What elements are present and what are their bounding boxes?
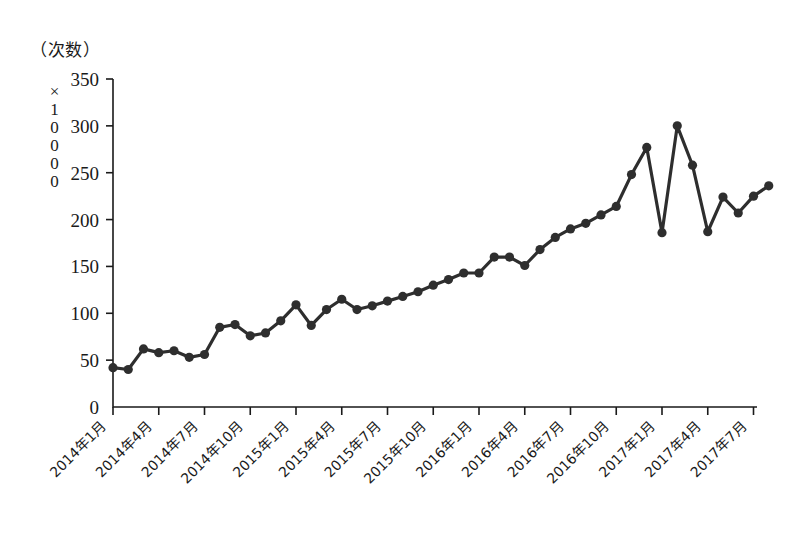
- data-point: [368, 301, 377, 310]
- data-point: [627, 170, 636, 179]
- data-point: [276, 316, 285, 325]
- data-point: [322, 305, 331, 314]
- data-point: [581, 219, 590, 228]
- data-point: [413, 287, 422, 296]
- data-point: [429, 281, 438, 290]
- data-point: [154, 348, 163, 357]
- data-point: [200, 350, 209, 359]
- y-tick-label: 350: [71, 69, 100, 90]
- data-point: [764, 181, 773, 190]
- axis-frame: [113, 79, 757, 407]
- data-point: [520, 261, 529, 270]
- data-point: [139, 344, 148, 353]
- y-axis-ticks: 050100150200250300350: [71, 69, 114, 418]
- data-point: [749, 192, 758, 201]
- data-point: [307, 321, 316, 330]
- data-point: [383, 297, 392, 306]
- data-point: [490, 252, 499, 261]
- data-point: [459, 268, 468, 277]
- line-chart: （次数） ×10000 050100150200250300350 2014年1…: [0, 0, 803, 536]
- data-series-line: [113, 126, 769, 370]
- data-point: [566, 224, 575, 233]
- y-tick-label: 0: [90, 397, 100, 418]
- data-point: [505, 252, 514, 261]
- data-point: [612, 202, 621, 211]
- x-axis-labels: 2014年1月2014年4月2014年7月2014年10月2015年1月2015…: [47, 418, 750, 487]
- x-axis-ticks: [113, 407, 754, 415]
- data-point: [169, 346, 178, 355]
- data-point: [185, 353, 194, 362]
- y-tick-label: 100: [71, 303, 100, 324]
- y-tick-label: 200: [71, 210, 100, 231]
- data-point: [551, 233, 560, 242]
- data-point: [642, 143, 651, 152]
- data-point: [688, 161, 697, 170]
- data-point: [444, 275, 453, 284]
- data-point: [215, 323, 224, 332]
- y-tick-label: 150: [71, 256, 100, 277]
- data-point: [673, 121, 682, 130]
- y-tick-label: 50: [80, 350, 99, 371]
- data-point: [734, 208, 743, 217]
- data-point: [657, 228, 666, 237]
- y-tick-label: 250: [71, 163, 100, 184]
- data-point: [108, 363, 117, 372]
- plot-area: 050100150200250300350 2014年1月2014年4月2014…: [0, 0, 803, 536]
- data-point: [230, 320, 239, 329]
- data-point: [291, 300, 300, 309]
- y-tick-label: 300: [71, 116, 100, 137]
- data-point: [703, 227, 712, 236]
- data-point: [337, 295, 346, 304]
- data-point: [535, 245, 544, 254]
- data-point: [596, 210, 605, 219]
- data-point: [352, 305, 361, 314]
- data-point: [124, 365, 133, 374]
- data-point: [246, 331, 255, 340]
- data-point: [474, 268, 483, 277]
- data-point: [718, 192, 727, 201]
- data-point: [398, 292, 407, 301]
- data-point: [261, 328, 270, 337]
